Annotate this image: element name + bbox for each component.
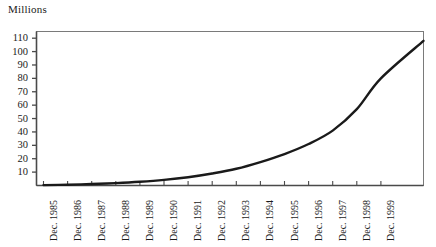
plot-frame: [37, 32, 424, 186]
plot-area: [0, 0, 436, 247]
chart-container: Millions 102030405060708090100110 Dec. 1…: [0, 0, 436, 247]
data-series-line: [44, 41, 424, 185]
